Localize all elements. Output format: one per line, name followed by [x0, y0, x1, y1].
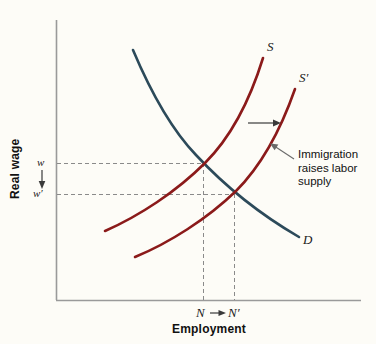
curve-label-supply: S — [267, 40, 274, 53]
x-axis-title: Employment — [172, 322, 246, 336]
immigration-callout: Immigration raises labor supply — [298, 148, 374, 189]
callout-line-1: Immigration — [298, 148, 374, 162]
callout-line-2: raises labor — [298, 162, 374, 176]
supply-curve — [105, 58, 263, 231]
economics-figure: S S′ D w w′ N N′ Real wage Employment Im… — [0, 0, 376, 344]
curve-label-supply-shifted: S′ — [299, 71, 308, 84]
curve-label-demand: D — [303, 233, 312, 246]
employment-increase-arrow-icon — [210, 310, 226, 316]
tick-label-n-prime: N′ — [228, 306, 240, 319]
tick-label-w-prime: w′ — [33, 188, 43, 199]
callout-pointer-icon — [270, 144, 294, 160]
supply-shift-arrow-icon — [248, 120, 281, 127]
tick-label-n: N — [196, 306, 205, 319]
tick-label-w: w — [37, 157, 44, 168]
callout-line-3: supply — [298, 175, 374, 189]
y-axis-title: Real wage — [8, 139, 22, 200]
